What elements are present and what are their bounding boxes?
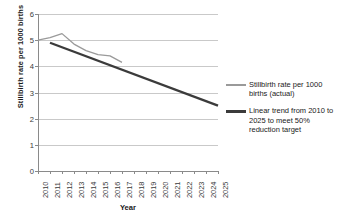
x-axis-tick-mark [74, 171, 75, 174]
x-axis-tick-label: 2020 [161, 182, 170, 198]
legend-entry[interactable]: Linear trend from 2010 to 2025 to meet 5… [226, 106, 348, 134]
legend-swatch-icon [226, 84, 246, 86]
x-axis-tick-label: 2016 [113, 182, 122, 198]
y-axis-tick-label: 2 [16, 114, 34, 123]
x-axis-tick-labels: 2010201120122013201420152016201720182019… [38, 176, 218, 202]
y-axis-tick-mark [35, 66, 38, 67]
legend-label: Stillbirth rate per 1000 births (actual) [249, 80, 322, 98]
x-axis-tick-label: 2017 [125, 182, 134, 198]
legend-line-icon [226, 84, 246, 86]
x-axis-tick-mark [158, 171, 159, 174]
y-axis-tick-label: 6 [16, 10, 34, 19]
y-axis-tick-mark [35, 119, 38, 120]
x-axis-tick-label: 2024 [209, 182, 218, 198]
y-axis-tick-mark [35, 14, 38, 15]
x-axis-tick-mark [194, 171, 195, 174]
x-axis-tick-mark [38, 171, 39, 174]
x-axis-tick-mark [182, 171, 183, 174]
series-line-trend [50, 43, 218, 106]
legend-swatch-icon [226, 110, 246, 113]
chart-legend: Stillbirth rate per 1000 births (actual)… [226, 80, 348, 142]
y-axis-tick-mark [35, 145, 38, 146]
x-axis-tick-label: 2022 [185, 182, 194, 198]
legend-line-icon [226, 110, 246, 113]
y-axis-tick-mark [35, 40, 38, 41]
legend-entry[interactable]: Stillbirth rate per 1000 births (actual) [226, 80, 348, 98]
x-axis-tick-mark [62, 171, 63, 174]
x-axis-tick-label: 2010 [41, 182, 50, 198]
y-axis-tick-label: 0 [16, 167, 34, 176]
series-line-actual [38, 34, 122, 63]
plot-area [38, 14, 218, 171]
x-axis-tick-label: 2021 [173, 182, 182, 198]
x-axis-tick-marks [38, 171, 218, 175]
x-axis-tick-mark [110, 171, 111, 174]
x-axis-tick-label: 2018 [137, 182, 146, 198]
y-axis-tick-label: 1 [16, 140, 34, 149]
x-axis-tick-label: 2019 [149, 182, 158, 198]
x-axis-tick-label: 2014 [89, 182, 98, 198]
x-axis-tick-label: 2015 [101, 182, 110, 198]
x-axis-tick-mark [50, 171, 51, 174]
x-axis-tick-mark [134, 171, 135, 174]
y-axis-tick-label: 3 [16, 88, 34, 97]
x-axis-tick-mark [206, 171, 207, 174]
x-axis-tick-label: 2023 [197, 182, 206, 198]
stillbirth-rate-chart: Stillbirth rate per 1000 births 0123456 … [0, 0, 348, 220]
y-axis-tick-label: 5 [16, 36, 34, 45]
series-lines [38, 14, 218, 171]
x-axis-tick-mark [170, 171, 171, 174]
x-axis-tick-label: 2012 [65, 182, 74, 198]
x-axis-tick-label: 2013 [77, 182, 86, 198]
x-axis-title: Year [38, 203, 218, 212]
y-axis-tick-labels: 0123456 [16, 14, 34, 171]
x-axis-tick-label: 2011 [53, 182, 62, 198]
x-axis-tick-label: 2025 [221, 182, 230, 198]
x-axis-tick-mark [122, 171, 123, 174]
x-axis-tick-mark [98, 171, 99, 174]
x-axis-tick-mark [218, 171, 219, 174]
x-axis-tick-mark [146, 171, 147, 174]
y-axis-tick-label: 4 [16, 62, 34, 71]
legend-label: Linear trend from 2010 to 2025 to meet 5… [249, 106, 333, 134]
x-axis-tick-mark [86, 171, 87, 174]
y-axis-tick-mark [35, 93, 38, 94]
